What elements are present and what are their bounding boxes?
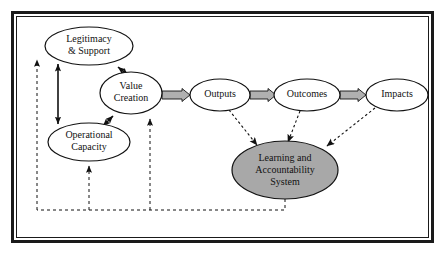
node-label-operational-capacity-line-2: Capacity bbox=[71, 141, 107, 152]
node-label-outcomes: Outcomes bbox=[287, 88, 328, 99]
node-label-value-creation-line-2: Creation bbox=[114, 92, 148, 103]
node-outcomes[interactable]: Outcomes bbox=[274, 79, 340, 111]
node-label-operational-capacity-line-1: Operational bbox=[65, 129, 112, 140]
node-label-learning-accountability-system-line-1: Learning and bbox=[258, 152, 311, 163]
node-label-legitimacy-support-line-2: & Support bbox=[68, 45, 110, 56]
diagram-figure: Learning and Accountability System Legit… bbox=[0, 0, 445, 254]
node-learning-accountability-system[interactable]: Learning and Accountability System bbox=[232, 141, 338, 199]
node-label-value-creation-line-1: Value bbox=[120, 80, 143, 91]
node-legitimacy-support[interactable]: Legitimacy & Support bbox=[45, 27, 133, 65]
node-label-learning-accountability-system-line-3: System bbox=[270, 176, 300, 187]
node-label-impacts: Impacts bbox=[381, 88, 413, 99]
diagram-canvas: Learning and Accountability System Legit… bbox=[0, 0, 445, 254]
node-label-learning-accountability-system-line-2: Accountability bbox=[255, 164, 314, 175]
node-label-outputs: Outputs bbox=[204, 88, 236, 99]
node-outputs[interactable]: Outputs bbox=[190, 79, 250, 111]
node-impacts[interactable]: Impacts bbox=[366, 79, 428, 111]
node-label-legitimacy-support-line-1: Legitimacy bbox=[66, 33, 112, 44]
node-operational-capacity[interactable]: Operational Capacity bbox=[48, 123, 130, 161]
node-value-creation[interactable]: Value Creation bbox=[100, 72, 162, 114]
